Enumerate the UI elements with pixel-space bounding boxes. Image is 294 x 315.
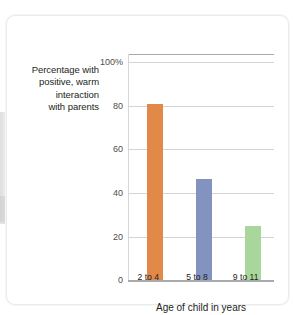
plot-area: 020406080100%: [128, 54, 274, 282]
y-axis-spine: [128, 54, 129, 282]
bar-5-to-8: [196, 179, 212, 281]
y-axis-caption-line-2: positive, warm: [13, 76, 99, 88]
scan-top-band: [0, 0, 294, 14]
scanned-page: Percentage with positive, warm interacti…: [0, 0, 294, 315]
bar-2-to-4: [147, 104, 163, 281]
y-axis-caption: Percentage with positive, warm interacti…: [13, 64, 99, 114]
x-tick-label-2-to-4: 2 to 4: [138, 272, 160, 282]
y-axis-caption-line-4: with parents: [13, 101, 99, 113]
y-tick-label-0: 0: [118, 275, 123, 285]
y-tick-label-60: 60: [113, 144, 123, 154]
gridline-100: [128, 62, 274, 63]
y-axis-caption-line-1: Percentage with: [13, 64, 99, 76]
y-tick-label-80: 80: [113, 101, 123, 111]
x-tick-label-9-to-11: 9 to 11: [233, 272, 259, 282]
y-tick-label-40: 40: [113, 188, 123, 198]
y-tick-label-20: 20: [113, 232, 123, 242]
y-axis-caption-line-3: interaction: [13, 89, 99, 101]
chart-figure: Percentage with positive, warm interacti…: [6, 15, 289, 305]
plot-top-rule: [128, 54, 274, 55]
x-tick-label-5-to-8: 5 to 8: [186, 272, 208, 282]
x-axis-title: Age of child in years: [128, 302, 274, 313]
y-tick-label-100: 100%: [100, 57, 123, 67]
